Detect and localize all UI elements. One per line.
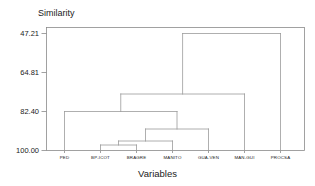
x-axis-title: Variables: [0, 168, 315, 179]
dendrogram-plot: 47.21 64.81 82.40 100.00: [0, 0, 315, 186]
y-tick-labels: 47.21 64.81 82.40 100.00: [16, 29, 39, 155]
y-tick-label: 82.40: [20, 107, 39, 116]
y-tick-label: 100.00: [16, 146, 39, 155]
dendrogram-figure: Similarity 47.21 64.81 82.40 100.00: [0, 0, 315, 186]
leaf-label-gua-ven: GUA-VEN: [198, 155, 219, 160]
leaf-label-ped: PED: [60, 155, 69, 160]
y-tick-marks: [42, 34, 47, 151]
y-tick-label: 47.21: [20, 29, 39, 38]
x-tick-labels: PED BP-ICOT BRAGRE MANITO GUA-VEN MAN-GU…: [60, 155, 290, 160]
merge-links: [65, 34, 281, 146]
leaf-stems: [65, 34, 281, 151]
leaf-label-man-gui: MAN-GUI: [234, 155, 254, 160]
leaf-label-bp-icot: BP-ICOT: [91, 155, 110, 160]
plot-frame: [47, 28, 305, 151]
leaf-label-manito: MANITO: [164, 155, 182, 160]
leaf-label-bragre: BRAGRE: [127, 155, 146, 160]
y-tick-label: 64.81: [20, 68, 39, 77]
leaf-label-procsa: PROCSA: [271, 155, 290, 160]
